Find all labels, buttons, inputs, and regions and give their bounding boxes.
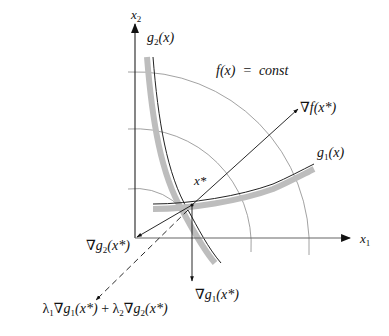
combination-dashed-arrow — [96, 210, 188, 300]
arc-mid — [128, 129, 251, 252]
constraint-g2-curve — [147, 57, 221, 263]
x2-axis-label: x2 — [130, 7, 141, 24]
f-const-label: f(x) = const — [216, 63, 290, 79]
x1-axis-label: x1 — [359, 231, 370, 248]
grad-g1-label: ∇g1(x*) — [195, 287, 239, 304]
g1-label: g1(x) — [317, 145, 344, 162]
grad-f-arrow — [192, 109, 298, 205]
g2-label: g2(x) — [147, 30, 174, 47]
xstar-point — [190, 203, 193, 206]
grad-g2-label: ∇g2(x*) — [86, 238, 130, 255]
arc-large — [128, 72, 309, 255]
lagrange-diagram: x2 x1 g2(x) f(x) = const ∇f(x*) g1(x) x*… — [0, 0, 389, 336]
xstar-label: x* — [193, 173, 207, 188]
combination-label: λ1∇g1(x*) + λ2∇g2(x*) — [25, 301, 178, 318]
level-set-arcs — [128, 72, 309, 255]
grad-f-label: ∇f(x*) — [300, 100, 337, 116]
